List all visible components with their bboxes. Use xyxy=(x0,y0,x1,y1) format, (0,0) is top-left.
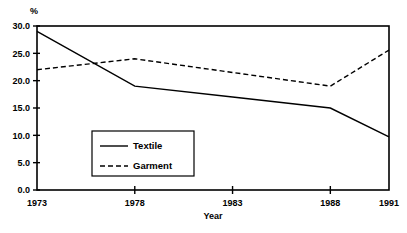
series-line-garment xyxy=(37,50,389,86)
x-tick-label: 1983 xyxy=(223,198,243,208)
y-tick-label: 0.0 xyxy=(17,185,30,195)
legend-label-textile: Textile xyxy=(133,140,162,151)
series-line-textile xyxy=(37,31,389,137)
y-tick-label: 30.0 xyxy=(12,21,30,31)
y-axis-tick-labels: 0.05.010.015.020.025.030.0 xyxy=(12,21,30,195)
x-tick-label: 1978 xyxy=(125,198,145,208)
line-chart-plot: 0.05.010.015.020.025.030.0 1973197819831… xyxy=(0,0,407,233)
x-tick-label: 1988 xyxy=(320,198,340,208)
chart-legend: TextileGarment xyxy=(92,131,194,176)
data-series-group xyxy=(37,31,389,137)
x-axis-title: Year xyxy=(203,211,223,221)
y-tick-label: 10.0 xyxy=(12,131,30,141)
y-tick-label: 20.0 xyxy=(12,76,30,86)
y-tick-label: 5.0 xyxy=(17,158,30,168)
legend-label-garment: Garment xyxy=(133,160,173,171)
x-tick-label: 1991 xyxy=(379,198,399,208)
x-axis-tick-labels: 19731978198319881991 xyxy=(27,198,399,208)
plot-frame xyxy=(37,26,389,190)
y-tick-label: 25.0 xyxy=(12,49,30,59)
x-tick-label: 1973 xyxy=(27,198,47,208)
chart-figure: % 0.05.010.015.020.025.030.0 19731978198… xyxy=(0,0,407,233)
y-tick-label: 15.0 xyxy=(12,103,30,113)
